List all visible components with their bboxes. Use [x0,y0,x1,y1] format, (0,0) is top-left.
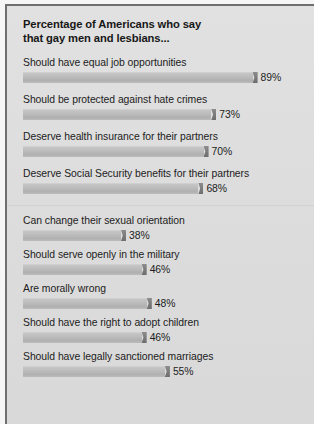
chart-row: Deserve health insurance for their partn… [23,131,308,157]
bar-value-label: 68% [203,183,227,194]
bar-end-cap [198,183,203,194]
bar-category-label: Can change their sexual orientation [23,215,308,227]
chart-panel: Percentage of Americans who saythat gay … [5,4,314,424]
bar [23,109,211,120]
bar-value-label: 46% [147,264,171,275]
page-title: Percentage of Americans who saythat gay … [23,18,308,45]
bar [23,298,147,309]
chart-page: Percentage of Americans who saythat gay … [0,0,314,424]
bar [23,332,142,343]
bar-line: 46% [23,264,308,275]
bar-category-label: Should have equal job opportunities [23,57,308,69]
bar-value-label: 70% [209,146,233,157]
bar [23,264,142,275]
bar-line: 73% [23,109,308,120]
bar-category-label: Should have the right to adopt children [23,317,308,329]
bar [23,146,204,157]
bar-chart-rows: Should have equal job opportunities89%Sh… [23,57,308,377]
chart-title-line-1: Percentage of Americans who say [23,18,201,30]
bar [23,183,198,194]
bar-category-label: Should be protected against hate crimes [23,94,308,106]
bar-end-cap [147,298,152,309]
bar-line: 46% [23,332,308,343]
group-separator [7,205,314,206]
bar-end-cap [204,146,209,157]
bar-value-label: 38% [126,230,150,241]
chart-row: Deserve Social Security benefits for the… [23,168,308,194]
chart-inner: Percentage of Americans who saythat gay … [7,6,314,424]
bar-line: 70% [23,146,308,157]
bar-line: 55% [23,366,308,377]
chart-row: Should serve openly in the military46% [23,249,308,275]
bar-end-cap [253,72,258,83]
chart-row: Should be protected against hate crimes7… [23,94,308,120]
bar-value-label: 55% [170,366,194,377]
bar-end-cap [211,109,216,120]
bar-value-label: 46% [147,332,171,343]
bar [23,72,253,83]
bar-category-label: Should have legally sanctioned marriages [23,351,308,363]
bar [23,230,121,241]
bar [23,366,165,377]
chart-title-line-2: that gay men and lesbians... [23,32,169,44]
bar-value-label: 73% [216,109,240,120]
bar-category-label: Deserve Social Security benefits for the… [23,168,308,180]
bar-category-label: Should serve openly in the military [23,249,308,261]
bar-end-cap [165,366,170,377]
chart-row: Should have equal job opportunities89% [23,57,308,83]
bar-value-label: 89% [258,72,282,83]
chart-row: Should have the right to adopt children4… [23,317,308,343]
chart-row: Can change their sexual orientation38% [23,215,308,241]
bar-category-label: Deserve health insurance for their partn… [23,131,308,143]
bar-line: 38% [23,230,308,241]
chart-row: Should have legally sanctioned marriages… [23,351,308,377]
bar-end-cap [121,230,126,241]
bar-category-label: Are morally wrong [23,283,308,295]
bar-line: 68% [23,183,308,194]
bar-value-label: 48% [152,298,176,309]
bar-end-cap [142,264,147,275]
bar-end-cap [142,332,147,343]
bar-line: 48% [23,298,308,309]
bar-line: 89% [23,72,308,83]
chart-row: Are morally wrong48% [23,283,308,309]
